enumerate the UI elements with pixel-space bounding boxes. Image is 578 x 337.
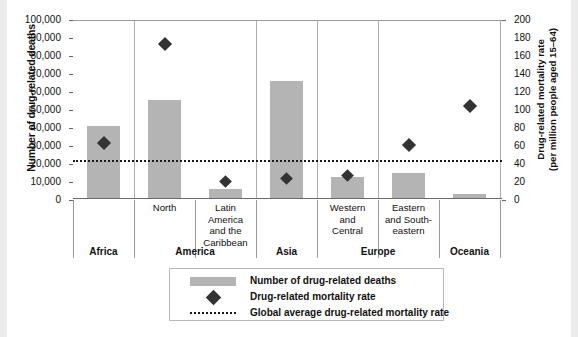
subcategory-line: Western xyxy=(317,202,378,214)
subcategory-line: Latin xyxy=(195,202,256,214)
right-axis-title: Drug-related mortality rate (per million… xyxy=(535,12,558,187)
right-tick: 60 xyxy=(514,141,525,151)
subcategory-line: eastern xyxy=(378,225,439,237)
subcategory-line: Central xyxy=(317,225,378,237)
subcategory-north: North xyxy=(134,202,195,214)
left-tick: 90,000 xyxy=(30,33,61,43)
plot-separator xyxy=(378,21,379,198)
right-tick: 180 xyxy=(514,33,531,43)
right-axis-title-line1: Drug-related mortality rate xyxy=(535,12,547,187)
bar-swatch-icon xyxy=(190,277,236,286)
right-tick: 0 xyxy=(514,195,520,205)
right-tick: 40 xyxy=(514,159,525,169)
legend-item-mortality-rate: Drug-related mortality rate xyxy=(170,290,443,305)
left-tick: 60,000 xyxy=(30,87,61,97)
subcategory-line: and xyxy=(317,214,378,226)
marker-north-america xyxy=(157,37,171,51)
right-tick: 120 xyxy=(514,87,531,97)
right-tick: 20 xyxy=(514,177,525,187)
subcategory-line: and South- xyxy=(378,214,439,226)
category-america: America xyxy=(134,246,256,257)
legend-label: Drug-related mortality rate xyxy=(250,290,376,304)
plot-area xyxy=(73,20,502,199)
marker-oceania xyxy=(462,99,476,113)
marker-eastern-europe xyxy=(401,138,415,152)
left-tick: 0 xyxy=(55,195,61,205)
left-tick: 30,000 xyxy=(30,141,61,151)
legend-label: Global average drug-related mortality ra… xyxy=(250,306,449,320)
plot-separator xyxy=(317,21,318,198)
category-europe: Europe xyxy=(317,246,439,257)
category-oceania: Oceania xyxy=(439,246,500,257)
plot-separator xyxy=(256,21,257,198)
subcategory-latin-america: Latin America and the Caribbean xyxy=(195,202,256,248)
left-tick: 70,000 xyxy=(30,69,61,79)
left-tick: 40,000 xyxy=(30,123,61,133)
left-tick: 10,000 xyxy=(30,177,61,187)
bar-latin-america xyxy=(209,189,242,198)
bar-north-america xyxy=(148,100,181,199)
subcategory-line: North xyxy=(134,202,195,214)
marker-latin-america xyxy=(219,176,232,189)
subcategory-line: and the xyxy=(195,225,256,237)
left-tick: 80,000 xyxy=(30,51,61,61)
chart-figure: Number of drug-related deaths Drug-relat… xyxy=(7,0,571,337)
right-tick: 100 xyxy=(514,105,531,115)
chart-legend: Number of drug-related deaths Drug-relat… xyxy=(169,268,444,321)
category-axis: North Latin America and the Caribbean We… xyxy=(73,200,502,260)
right-tick: 200 xyxy=(514,15,531,25)
figure-title-sliver xyxy=(27,0,447,3)
diamond-marker-icon xyxy=(206,290,222,306)
subcategory-eastern-southeastern: Eastern and South- eastern xyxy=(378,202,439,237)
legend-item-deaths: Number of drug-related deaths xyxy=(170,274,443,289)
right-tick: 80 xyxy=(514,123,525,133)
right-tick: 140 xyxy=(514,69,531,79)
right-axis-title-line2: (per million people aged 15–64) xyxy=(547,12,559,187)
subcategory-line: Eastern xyxy=(378,202,439,214)
plot-separator xyxy=(500,21,501,198)
subcategory-western-central: Western and Central xyxy=(317,202,378,237)
category-asia: Asia xyxy=(256,246,317,257)
subcategory-line: America xyxy=(195,214,256,226)
category-africa: Africa xyxy=(73,246,134,257)
global-average-line xyxy=(73,160,502,162)
bar-oceania xyxy=(453,194,486,199)
left-tick: 20,000 xyxy=(30,159,61,169)
category-separator xyxy=(500,200,501,258)
legend-label: Number of drug-related deaths xyxy=(250,274,396,288)
dotted-line-icon xyxy=(190,312,236,314)
legend-item-global-average: Global average drug-related mortality ra… xyxy=(170,306,443,321)
right-tick: 160 xyxy=(514,51,531,61)
plot-separator xyxy=(134,21,135,198)
left-tick: 50,000 xyxy=(30,105,61,115)
bar-eastern-europe xyxy=(392,173,425,198)
left-tick: 100,000 xyxy=(25,15,61,25)
